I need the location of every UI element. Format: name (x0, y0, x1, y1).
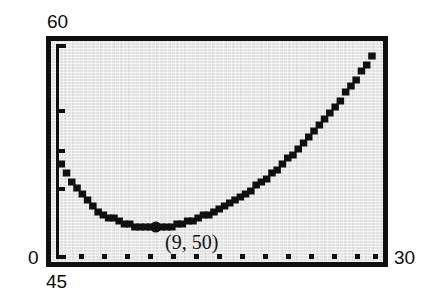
curve-pixel (300, 140, 308, 147)
x-axis-tick (194, 254, 199, 259)
y-axis-tick (56, 44, 66, 48)
curve-pixel (263, 176, 271, 183)
y-axis-max-label: 60 (47, 12, 68, 31)
curve-pixel (63, 170, 71, 177)
x-axis-tick (148, 254, 153, 259)
x-axis-tick (79, 254, 84, 259)
y-axis-tick (56, 255, 66, 259)
curve-pixel (347, 83, 355, 90)
curve-pixel (247, 188, 255, 195)
curve-pixel (368, 53, 376, 60)
x-axis-tick (309, 254, 314, 259)
plot-area (51, 41, 383, 262)
curve-pixel (73, 185, 81, 192)
y-axis-min-label: 0 (28, 248, 39, 267)
x-axis-tick (373, 254, 378, 259)
y-axis-tick (56, 187, 65, 191)
curve-pixel (358, 68, 366, 75)
curve-pixel (326, 110, 334, 117)
curve-pixel (363, 62, 371, 69)
curve-pixel (84, 197, 92, 204)
minimum-point-label: (9, 50) (165, 232, 218, 252)
curve-pixel (273, 167, 281, 174)
curve-pixel (68, 179, 76, 186)
curve-pixel (289, 152, 297, 159)
y-axis-tick (56, 109, 65, 113)
x-axis-tick (332, 254, 337, 259)
x-axis-tick (171, 254, 176, 259)
curve-pixel (58, 161, 66, 168)
curve-pixel (331, 104, 339, 111)
curve-pixel (279, 161, 287, 168)
x-axis-tick (286, 254, 291, 259)
curve-pixel (89, 203, 97, 210)
plotted-curve (58, 53, 376, 231)
x-axis-min-label: 45 (46, 272, 67, 291)
calculator-graph-figure: 60 0 45 30 (0, 0, 428, 301)
curve-pixel (337, 98, 345, 105)
x-axis-tick (240, 254, 245, 259)
curve-pixel (305, 134, 313, 141)
curve-pixel (352, 77, 360, 84)
x-axis-ticks (79, 254, 378, 259)
curve-pixel (310, 128, 318, 135)
x-axis-tick (355, 254, 360, 259)
curve-pixel (316, 122, 324, 129)
curve-pixel (79, 191, 87, 198)
x-axis-tick (125, 254, 130, 259)
minimum-point-marker (150, 222, 161, 233)
curve-pixel (295, 146, 303, 153)
x-axis-tick (102, 254, 107, 259)
curve-pixel (321, 116, 329, 123)
calculator-screen-frame: (9, 50) (46, 36, 388, 267)
x-axis-tick (263, 254, 268, 259)
curve-pixel (342, 89, 350, 96)
y-axis-tick (56, 149, 65, 153)
x-axis-tick (217, 254, 222, 259)
x-axis-max-label: 30 (394, 248, 415, 267)
